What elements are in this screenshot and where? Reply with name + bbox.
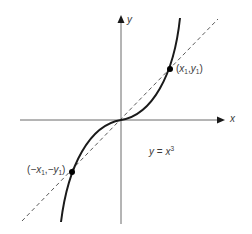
x-axis-arrow-icon [217,117,225,124]
point-label-neg-x1-neg-y1: (−x1,−y1) [27,164,65,176]
function-label: y = x3 [149,145,174,157]
point-neg-x1-neg-y1 [69,169,75,175]
y-axis-arrow-icon [118,15,125,23]
cubic-function-diagram [0,0,252,234]
point-x1-y1 [167,66,173,72]
point-label-x1-y1: (x1,y1) [176,63,203,75]
x-axis-label: x [230,113,235,124]
y-axis-label: y [127,14,132,25]
